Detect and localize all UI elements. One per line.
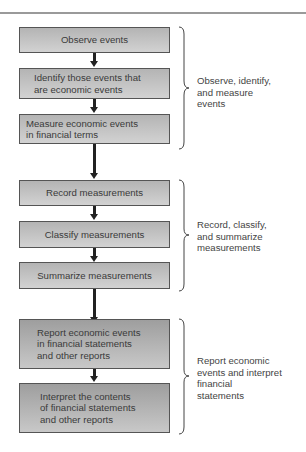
- brace-icon: [178, 179, 190, 292]
- arrow-down-icon: [93, 144, 96, 174]
- summary-line: Observe, identify,: [197, 75, 271, 87]
- step-text: and other reports: [37, 350, 169, 362]
- arrow-down-icon: [93, 369, 96, 377]
- summary-line: measurements: [197, 242, 267, 254]
- arrow-down-icon: [93, 53, 96, 62]
- top-rule: [0, 12, 306, 14]
- step-text: Summarize measurements: [37, 270, 152, 282]
- step-text: of financial statements: [40, 402, 169, 414]
- summary-line: statements: [197, 390, 282, 402]
- step-record-measurements: Record measurements: [19, 180, 170, 206]
- step-summarize-measurements: Summarize measurements: [19, 262, 170, 289]
- arrow-down-icon: [93, 206, 96, 215]
- arrow-down-icon: [93, 289, 96, 318]
- group-summary-observe: Observe, identify, and measure events: [197, 75, 271, 110]
- summary-line: Report economic: [197, 355, 282, 367]
- step-text: in financial statements: [37, 338, 169, 350]
- step-interpret-statements: Interpret the contents of financial stat…: [19, 383, 170, 433]
- brace-icon: [178, 26, 190, 150]
- arrow-down-icon: [93, 99, 96, 108]
- step-text: Interpret the contents: [40, 391, 169, 403]
- step-text: and other reports: [40, 414, 169, 426]
- group-summary-report: Report economic events and interpret fin…: [197, 355, 282, 401]
- step-classify-measurements: Classify measurements: [19, 221, 170, 248]
- step-text: Classify measurements: [45, 229, 145, 241]
- summary-line: and measure: [197, 87, 271, 99]
- summary-line: events and interpret: [197, 367, 282, 379]
- summary-line: Record, classify,: [197, 219, 267, 231]
- step-measure-economic-events: Measure economic events in financial ter…: [19, 114, 170, 144]
- step-text: are economic events: [34, 84, 169, 96]
- step-text: in financial terms: [26, 129, 169, 141]
- step-report-economic-events: Report economic events in financial stat…: [19, 319, 170, 369]
- summary-line: and summarize: [197, 231, 267, 243]
- brace-icon: [178, 318, 190, 435]
- summary-line: financial: [197, 378, 282, 390]
- step-observe-events: Observe events: [19, 27, 170, 53]
- arrow-down-icon: [93, 248, 96, 257]
- summary-line: events: [197, 98, 271, 110]
- step-text: Record measurements: [46, 187, 143, 199]
- step-identify-economic-events: Identify those events that are economic …: [19, 68, 170, 99]
- step-text: Observe events: [61, 34, 128, 46]
- step-text: Report economic events: [37, 327, 169, 339]
- step-text: Measure economic events: [26, 118, 169, 130]
- step-text: Identify those events that: [34, 72, 169, 84]
- group-summary-record: Record, classify, and summarize measurem…: [197, 219, 267, 254]
